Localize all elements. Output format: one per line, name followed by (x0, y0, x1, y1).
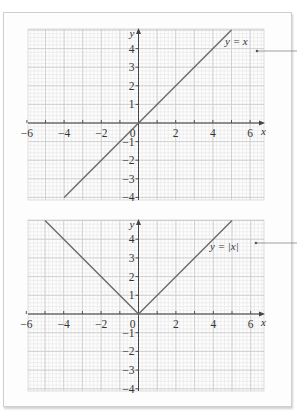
y-tick-label: −3 (122, 364, 134, 376)
y-axis-label: y (129, 27, 135, 39)
y-tick-label: −4 (122, 383, 134, 395)
chart-1: −6−4−20246−4−3−2−11234xyy = x (21, 27, 297, 203)
y-tick-label: 3 (129, 252, 135, 264)
y-tick-label: 1 (129, 98, 135, 110)
y-tick-label: 4 (129, 233, 135, 245)
y-tick-label: −2 (122, 154, 134, 166)
x-tick-label: −6 (21, 127, 33, 139)
series-line (64, 30, 231, 197)
chart-2: −6−4−20246−4−3−2−11234xyy = |x| (20, 218, 297, 395)
x-axis-label: x (260, 125, 266, 137)
y-tick-label: 2 (129, 80, 135, 92)
x-tick-label: −2 (95, 318, 107, 330)
x-tick-label: 2 (173, 127, 179, 139)
x-tick-label: 4 (210, 127, 216, 139)
x-tick-label: 6 (248, 318, 254, 330)
y-tick-label: −4 (122, 191, 134, 203)
equation-label: y = x (224, 35, 248, 47)
grid-minor (28, 29, 264, 200)
y-tick-label: −2 (122, 345, 134, 357)
y-tick-label: 3 (129, 61, 135, 73)
y-tick-label: 1 (129, 289, 135, 301)
y-tick-label: 2 (129, 271, 135, 283)
x-tick-label: −4 (58, 318, 70, 330)
y-tick-label: −3 (122, 173, 134, 185)
figure-svg: −6−4−20246−4−3−2−11234xyy = x−6−4−20246−… (0, 0, 297, 415)
x-axis-label: x (260, 316, 266, 328)
x-tick-label: −6 (20, 318, 32, 330)
x-tick-label: −2 (95, 127, 107, 139)
x-tick-label: 4 (210, 318, 216, 330)
x-tick-label: −4 (58, 127, 70, 139)
y-tick-label: −1 (122, 327, 134, 339)
y-axis-label: y (129, 218, 135, 230)
y-tick-label: 4 (129, 43, 135, 55)
x-tick-label: 2 (173, 318, 179, 330)
x-tick-label: 6 (247, 127, 253, 139)
equation-label: y = |x| (209, 240, 239, 252)
